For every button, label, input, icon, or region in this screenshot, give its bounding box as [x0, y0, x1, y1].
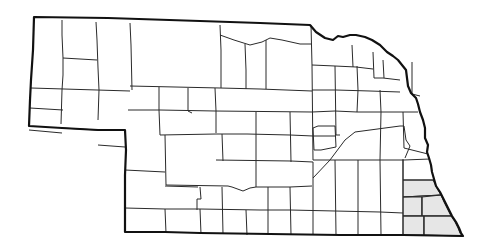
county-pawnee[interactable]: [403, 216, 424, 235]
nebraska-county-map: [0, 0, 487, 247]
county-johnson[interactable]: [403, 197, 422, 216]
county-richardson[interactable]: [424, 216, 462, 236]
shaded-counties: [403, 180, 462, 236]
